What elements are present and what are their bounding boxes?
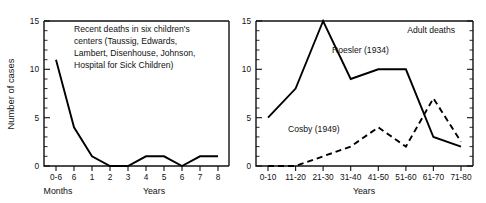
left-xtick-label-4: 3	[126, 172, 131, 182]
right-xtick-label-5: 51-60	[395, 172, 417, 182]
left-xtick-label-1: 6	[72, 172, 77, 182]
left-annotation-line-2: Lambert, Disenhouse, Johnson,	[74, 48, 195, 58]
roesler-series-label: Roesler (1934)	[332, 45, 389, 55]
right-ytick-label-5: 5	[246, 113, 251, 123]
right-ytick-label-0: 0	[246, 161, 251, 171]
cosby-series-label: Cosby (1949)	[288, 124, 340, 134]
left-annotation: Recent deaths in six children's centers …	[74, 24, 195, 70]
left-y-axis: 0 5 10 15	[30, 16, 50, 171]
left-panel: 0 5 10 15 Number of cases 0-6 6	[5, 16, 229, 196]
left-xtick-label-9: 8	[216, 172, 221, 182]
left-annotation-line-3: Hospital for Sick Children)	[74, 60, 173, 70]
figure-container: 0 5 10 15 Number of cases 0-6 6	[0, 0, 486, 203]
left-ytick-label-10: 10	[30, 64, 40, 74]
left-xtick-label-8: 7	[198, 172, 203, 182]
right-xtick-label-1: 11-20	[285, 172, 306, 182]
figure-svg: 0 5 10 15 Number of cases 0-6 6	[0, 0, 486, 203]
right-y-axis: 0 5 10 15	[242, 16, 262, 171]
right-axis-lines	[256, 21, 473, 166]
left-xtick-label-3: 2	[108, 172, 113, 182]
left-y-axis-title: Number of cases	[5, 58, 16, 129]
left-ytick-label-0: 0	[34, 161, 39, 171]
left-x-group-label-months: Months	[44, 186, 73, 196]
right-x-axis-title: Years	[353, 186, 376, 196]
left-ytick-label-15: 15	[30, 16, 40, 26]
right-ytick-label-10: 10	[242, 64, 252, 74]
left-series-line	[56, 60, 218, 166]
right-xtick-label-6: 61-70	[423, 172, 445, 182]
right-panel-right-ticks	[467, 21, 473, 166]
right-xtick-label-0: 0-10	[260, 172, 277, 182]
left-annotation-line-1: centers (Taussig, Edwards,	[74, 36, 177, 46]
left-xtick-label-2: 1	[90, 172, 95, 182]
left-annotation-line-0: Recent deaths in six children's	[74, 24, 190, 34]
left-x-axis: 0-6 6 1 2 3 4 5 6 7 8	[50, 166, 221, 182]
left-ytick-label-5: 5	[34, 113, 39, 123]
left-xtick-label-7: 6	[180, 172, 185, 182]
right-ytick-label-15: 15	[242, 16, 252, 26]
right-panel: 0 5 10 15	[242, 16, 473, 196]
left-xtick-label-0: 0-6	[50, 172, 62, 182]
right-xtick-label-3: 31-40	[340, 172, 362, 182]
right-xtick-label-2: 21-30	[312, 172, 334, 182]
left-xtick-label-6: 5	[162, 172, 167, 182]
left-xtick-label-5: 4	[144, 172, 149, 182]
right-panel-title: Adult deaths	[407, 25, 455, 35]
right-xtick-label-7: 71-80	[450, 172, 472, 182]
right-x-axis: 0-10 11-20 21-30 31-40 41-50 51-60 61-70…	[260, 166, 472, 182]
left-x-group-label-years: Years	[143, 186, 166, 196]
right-xtick-label-4: 41-50	[368, 172, 390, 182]
